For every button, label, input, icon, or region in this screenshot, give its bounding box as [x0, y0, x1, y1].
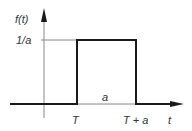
start-label: T: [72, 114, 80, 126]
x-axis-arrow-icon: [170, 101, 184, 107]
width-label: a: [102, 91, 108, 103]
end-label: T + a: [123, 114, 148, 126]
pulse-signal: [10, 40, 176, 104]
x-axis-label: t: [168, 114, 172, 126]
y-axis-arrow-icon: [41, 8, 47, 22]
level-label: 1/a: [16, 34, 31, 46]
y-axis-label: f(t): [15, 13, 29, 25]
pulse-diagram: f(t) 1/a a T T + a t: [0, 0, 192, 131]
